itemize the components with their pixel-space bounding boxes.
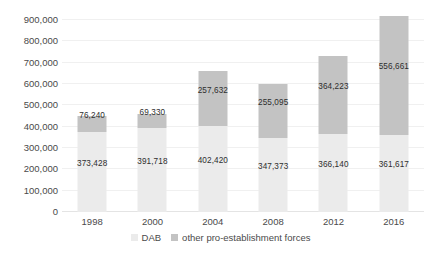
bar-value-label-other: 69,330 [140,108,166,117]
y-axis-tick-label: 800,000 [0,36,58,46]
bar-value-label-dab: 373,428 [77,159,107,168]
stacked-bar-2012[interactable]: 366,140364,223 [319,56,348,212]
bar-value-label-other: 556,661 [379,62,409,71]
y-axis-tick-label: 600,000 [0,79,58,89]
chart-legend: DAB other pro-establishment forces [0,232,441,243]
stacked-bar-2008[interactable]: 347,373255,095 [259,83,288,212]
bar-segment-dab[interactable] [138,128,167,212]
bar-slot: 366,140364,223 [303,20,363,212]
stacked-bar-chart: 900,000 800,000 700,000 600,000 500,000 … [0,0,441,261]
bar-value-label-dab: 366,140 [318,159,348,168]
bar-segment-dab[interactable] [379,135,408,212]
y-axis-tick-label: 500,000 [0,100,58,110]
legend-swatch-icon [131,234,138,241]
bar-value-label-dab: 402,420 [198,156,228,165]
bar-value-label-other: 364,223 [318,82,348,91]
y-axis-tick-label: 100,000 [0,186,58,196]
stacked-bar-2004[interactable]: 402,420257,632 [198,71,227,212]
x-axis-tick-label: 2012 [303,216,363,227]
bar-segment-other-pro-establishment[interactable] [379,16,408,135]
legend-label: DAB [142,232,162,243]
legend-item-dab[interactable]: DAB [131,232,162,243]
stacked-bar-2000[interactable]: 391,71869,330 [138,114,167,212]
x-axis-tick-label: 2000 [122,216,182,227]
bar-segment-dab[interactable] [78,132,107,212]
y-axis-tick-label: 0 [0,207,58,217]
y-axis-tick-label: 200,000 [0,164,58,174]
bar-segment-dab[interactable] [259,138,288,212]
x-axis-tick-label: 2016 [364,216,424,227]
bar-segment-dab[interactable] [319,134,348,212]
stacked-bar-2016[interactable]: 361,617556,661 [379,16,408,212]
y-axis-tick-label: 700,000 [0,58,58,68]
bar-segment-other-pro-establishment[interactable] [319,56,348,134]
legend-item-other-pro-establishment-forces[interactable]: other pro-establishment forces [171,232,310,243]
bar-slot: 391,71869,330 [122,20,182,212]
y-axis-tick-label: 300,000 [0,143,58,153]
bar-slot: 361,617556,661 [364,20,424,212]
bar-value-label-dab: 347,373 [258,161,288,170]
legend-swatch-icon [171,234,178,241]
y-axis-tick-label: 900,000 [0,15,58,25]
bar-segment-other-pro-establishment[interactable] [198,71,227,126]
x-axis-tick-label: 2004 [183,216,243,227]
bar-value-label-other: 255,095 [258,97,288,106]
x-axis-tick-label: 1998 [62,216,122,227]
stacked-bar-1998[interactable]: 373,42876,240 [78,116,107,212]
bar-value-label-other: 257,632 [198,85,228,94]
y-axis-tick-label: 400,000 [0,122,58,132]
bar-segment-other-pro-establishment[interactable] [259,84,288,138]
legend-label: other pro-establishment forces [182,232,310,243]
bar-slot: 347,373255,095 [243,20,303,212]
bar-segment-dab[interactable] [198,126,227,212]
bar-slot: 402,420257,632 [183,20,243,212]
bar-value-label-other: 76,240 [79,111,105,120]
bar-value-label-dab: 361,617 [379,160,409,169]
bar-value-label-dab: 391,718 [137,157,167,166]
x-axis-tick-label: 2008 [243,216,303,227]
plot-area: 900,000 800,000 700,000 600,000 500,000 … [62,20,424,212]
bar-slot: 373,42876,240 [62,20,122,212]
